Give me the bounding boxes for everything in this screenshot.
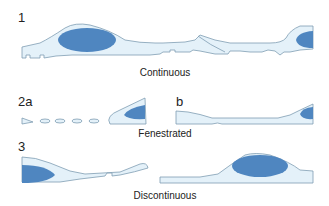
endothelium-diagram	[0, 0, 329, 206]
discontinuous-endothelium	[22, 154, 313, 184]
continuous-endothelium	[22, 24, 313, 58]
panel-label-2a: 2a	[18, 94, 32, 109]
caption-continuous: Continuous	[135, 67, 195, 78]
caption-fenestrated: Fenestrated	[130, 128, 200, 139]
fenestrated-endothelium-a	[22, 98, 146, 124]
fenestrated-endothelium-b	[176, 104, 313, 124]
nucleus-icon	[58, 28, 116, 52]
panel-label-3: 3	[18, 139, 25, 154]
panel-label-2b: b	[176, 94, 183, 109]
caption-discontinuous: Discontinuous	[125, 190, 205, 201]
nucleus-icon	[232, 155, 288, 177]
panel-label-1: 1	[18, 10, 25, 25]
